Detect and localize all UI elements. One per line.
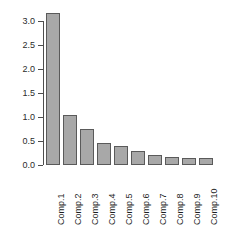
x-tick-label-9: Comp.10 bbox=[210, 188, 219, 225]
bar-comp-1 bbox=[46, 13, 60, 165]
bar-comp-9 bbox=[182, 158, 196, 165]
bar-comp-3 bbox=[80, 129, 94, 165]
screeplot-figure: 0.0 0.5 1.0 1.5 2.0 2.5 3.0 Comp.1C bbox=[0, 0, 236, 237]
x-tick-label-1: Comp.2 bbox=[74, 193, 83, 225]
x-tick-label-7: Comp.8 bbox=[176, 193, 185, 225]
bar-comp-10 bbox=[199, 158, 213, 165]
x-tick-label-6: Comp.7 bbox=[159, 193, 168, 225]
bar-comp-7 bbox=[148, 155, 162, 165]
plot-area: 0.0 0.5 1.0 1.5 2.0 2.5 3.0 Comp.1C bbox=[0, 0, 236, 237]
bar-comp-5 bbox=[114, 146, 128, 165]
x-tick-label-8: Comp.9 bbox=[193, 193, 202, 225]
x-tick-label-3: Comp.4 bbox=[108, 193, 117, 225]
x-tick-label-0: Comp.1 bbox=[57, 193, 66, 225]
bar-comp-4 bbox=[97, 143, 111, 165]
x-tick-label-5: Comp.6 bbox=[142, 193, 151, 225]
x-tick-label-2: Comp.3 bbox=[91, 193, 100, 225]
x-tick-label-4: Comp.5 bbox=[125, 193, 134, 225]
bar-comp-2 bbox=[63, 115, 77, 165]
bar-comp-8 bbox=[165, 157, 179, 165]
bar-comp-6 bbox=[131, 151, 145, 165]
